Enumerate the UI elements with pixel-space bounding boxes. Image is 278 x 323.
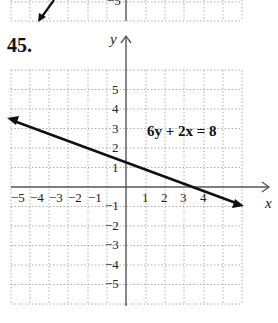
x-tick-3: 3 <box>180 191 187 204</box>
graph-canvas <box>0 0 278 323</box>
y-tick-3: 3 <box>112 122 119 135</box>
x-tick-neg4: −4 <box>30 191 44 204</box>
line-arrowhead-left <box>7 116 19 125</box>
x-axis-label: x <box>265 196 272 211</box>
y-tick-neg2: −2 <box>105 219 119 232</box>
y-tick-5: 5 <box>112 83 119 96</box>
x-tick-neg3: −3 <box>49 191 63 204</box>
x-tick-2: 2 <box>161 191 168 204</box>
x-tick-neg5: −5 <box>11 191 25 204</box>
y-tick-neg1: −1 <box>105 199 119 212</box>
equation-label: 6y + 2x = 8 <box>147 124 217 139</box>
prev-y-tick: −5 <box>107 0 121 7</box>
x-tick-neg2: −2 <box>68 191 82 204</box>
y-axis-label: y <box>110 32 117 47</box>
x-tick-4: 4 <box>200 191 207 204</box>
y-tick-1: 1 <box>112 161 119 174</box>
y-tick-neg3: −3 <box>105 238 119 251</box>
y-tick-neg4: −4 <box>105 258 119 271</box>
x-tick-1: 1 <box>142 191 149 204</box>
y-tick-4: 4 <box>112 102 119 115</box>
x-tick-neg1: −1 <box>88 191 102 204</box>
y-tick-neg5: −5 <box>105 277 119 290</box>
problem-number: 45. <box>7 35 32 55</box>
y-tick-2: 2 <box>112 141 119 154</box>
